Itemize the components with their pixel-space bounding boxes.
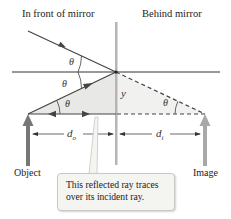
image-distance-label: di [156, 128, 163, 142]
theta-label-incident: θ [69, 57, 74, 67]
front-of-mirror-label: In front of mirror [22, 9, 95, 20]
do-arrowhead-left [32, 132, 38, 136]
mirror [115, 22, 118, 165]
reflection-point [114, 70, 117, 73]
theta-label-image: θ [163, 98, 168, 108]
theta-arc-upper [78, 56, 82, 72]
behind-mirror-label: Behind mirror [142, 9, 202, 20]
do-arrowhead-right [108, 132, 114, 136]
callout-line-1: This reflected ray traces [66, 179, 174, 191]
di-arrowhead-right [195, 132, 201, 136]
image-arrow-shaft [203, 124, 207, 166]
image-label: Image [193, 168, 218, 178]
callout-pointer [89, 117, 98, 174]
y-label: y [121, 88, 126, 99]
callout-box: This reflected ray traces over its incid… [57, 173, 175, 211]
theta-arc-lower [78, 72, 82, 88]
image-arrow-head [200, 114, 211, 126]
object-arrow-shaft [26, 124, 30, 166]
theta-label-reflected: θ [62, 79, 67, 89]
arrowhead-upper [58, 42, 66, 48]
object-distance-label: do [67, 128, 76, 142]
object-arrow-head [23, 114, 34, 126]
callout-line-2: over its incident ray. [66, 191, 174, 203]
di-arrowhead-left [119, 132, 125, 136]
object-label: Object [14, 168, 41, 178]
theta-label-object: θ [65, 99, 70, 109]
plane-mirror-diagram: In front of mirror Behind mirror θ θ θ θ… [0, 0, 231, 219]
